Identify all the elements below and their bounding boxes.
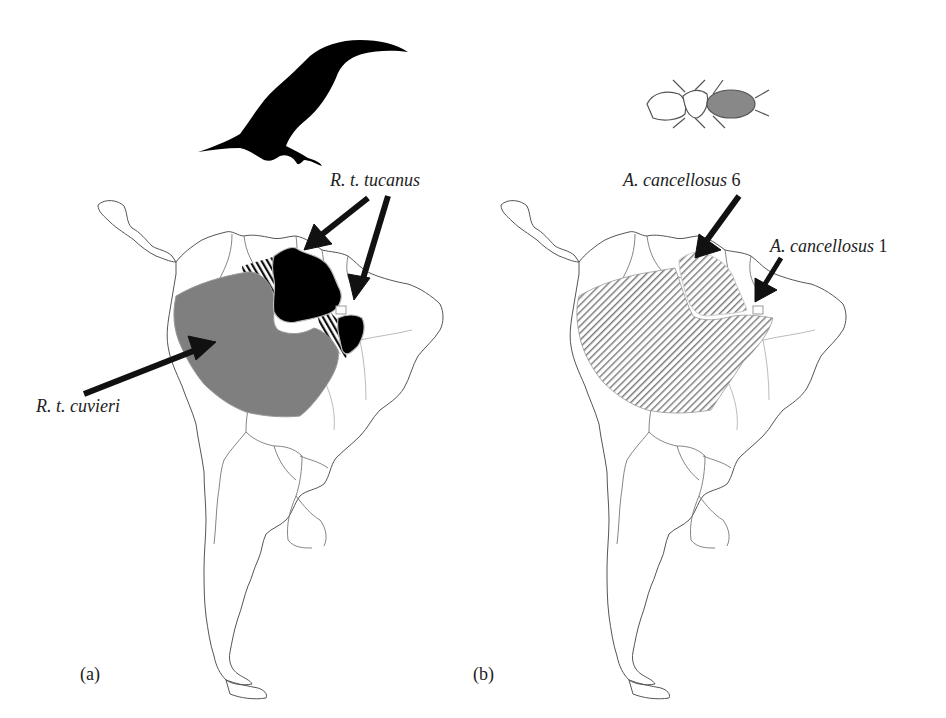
panel-letter-a: (a) xyxy=(80,664,100,685)
panel-b: A. cancellosus 6 A. cancellosus 1 (b) xyxy=(473,0,946,718)
region-tucanus-east xyxy=(337,315,364,354)
label-tucanus: R. t. tucanus xyxy=(330,170,420,191)
region-tucanus-north xyxy=(273,247,342,322)
map-south-america-a xyxy=(0,0,473,718)
region-cancellosus-6 xyxy=(679,252,747,316)
label-cancellosus-6: A. cancellosus 6 xyxy=(623,170,740,191)
island-marker xyxy=(336,306,346,314)
label-cuvieri: R. t. cuvieri xyxy=(36,396,120,417)
louse-illustration-icon xyxy=(647,80,769,128)
toucan-silhouette-icon xyxy=(198,40,408,166)
label-cancellosus-1: A. cancellosus 1 xyxy=(770,236,887,257)
region-cancellosus-1 xyxy=(577,268,773,413)
panel-letter-b: (b) xyxy=(473,664,494,685)
map-south-america-b xyxy=(473,0,946,718)
panel-a: R. t. tucanus R. t. cuvieri (a) xyxy=(0,0,473,718)
